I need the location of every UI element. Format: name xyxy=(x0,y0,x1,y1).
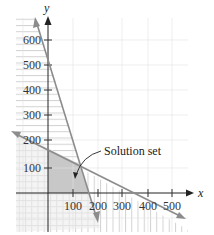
x-tick-200: 200 xyxy=(89,199,107,213)
x-axis-label: x xyxy=(197,186,204,200)
y-axis-arrow-icon xyxy=(45,16,52,25)
shallow-line-right-arrow-icon xyxy=(176,212,186,219)
y-tick-100: 100 xyxy=(23,161,41,175)
y-tick-600: 600 xyxy=(23,33,41,47)
y-tick-500: 500 xyxy=(23,58,41,72)
x-axis-arrow-icon xyxy=(186,190,194,197)
x-tick-300: 300 xyxy=(113,199,131,213)
y-tick-200: 200 xyxy=(23,133,41,147)
y-axis-label: y xyxy=(43,1,50,15)
y-tick-300: 300 xyxy=(23,108,41,122)
inequality-graph: 100 200 300 400 500 600 500 400 300 200 … xyxy=(0,0,214,235)
solution-set-label: Solution set xyxy=(104,144,162,158)
y-tick-400: 400 xyxy=(23,83,41,97)
x-tick-400: 400 xyxy=(139,199,157,213)
x-tick-500: 500 xyxy=(163,199,181,213)
x-tick-100: 100 xyxy=(64,199,82,213)
